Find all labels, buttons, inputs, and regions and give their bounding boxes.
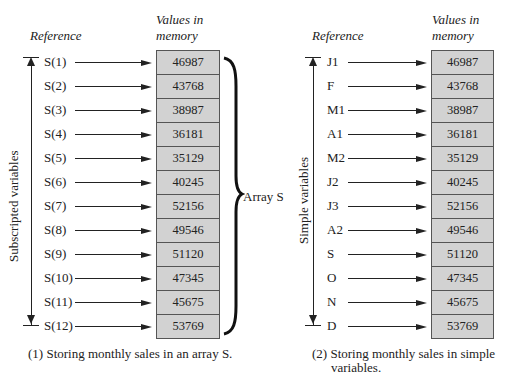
reference-label: A2 [327, 222, 343, 238]
arrow-line [348, 110, 417, 111]
arrow-line [75, 326, 142, 327]
reference-label: S(4) [44, 126, 66, 142]
right-values-header-line2: memory [432, 28, 474, 43]
arrow-line [75, 230, 142, 231]
arrow-right-icon [141, 60, 152, 66]
reference-label: S(8) [44, 222, 66, 238]
arrow-line [75, 182, 142, 183]
arrow-right-icon [416, 108, 427, 114]
arrow-right-icon [141, 84, 152, 90]
arrow-line [348, 230, 417, 231]
right-axis-bottom-bar [305, 325, 321, 326]
arrow-right-icon [141, 204, 152, 210]
memory-cell: 46987 [156, 50, 220, 75]
left-values-header-line1: Values in [156, 12, 203, 27]
reference-label: S(11) [44, 294, 72, 310]
brace-label: Array S [243, 189, 284, 205]
arrow-line [75, 110, 142, 111]
reference-label: S(1) [44, 54, 66, 70]
arrow-right-icon [416, 84, 427, 90]
array-brace-icon [222, 56, 242, 336]
memory-cell: 47345 [431, 266, 494, 291]
memory-cell: 53769 [156, 314, 220, 339]
left-reference-header: Reference [30, 28, 81, 43]
reference-label: S(12) [44, 318, 73, 334]
reference-label: S(3) [44, 102, 66, 118]
arrow-line [75, 86, 142, 87]
reference-label: A1 [327, 126, 343, 142]
memory-cell: 45675 [431, 290, 494, 315]
reference-label: O [327, 270, 336, 286]
arrow-line [75, 278, 142, 279]
memory-cell: 46987 [431, 50, 494, 75]
left-axis-label: Subscripted variables [6, 150, 22, 262]
memory-cell: 36181 [156, 122, 220, 147]
memory-cell: 40245 [156, 170, 220, 195]
arrow-right-icon [416, 180, 427, 186]
memory-cell: 43768 [431, 74, 494, 99]
arrow-right-icon [141, 156, 152, 162]
memory-cell: 52156 [431, 194, 494, 219]
arrow-line [348, 158, 417, 159]
arrow-right-icon [416, 60, 427, 66]
reference-label: S(10) [44, 270, 73, 286]
memory-cell: 51120 [156, 242, 220, 267]
arrow-line [75, 254, 142, 255]
arrow-right-icon [416, 228, 427, 234]
arrow-line [75, 134, 142, 135]
arrow-right-icon [416, 204, 427, 210]
right-axis-label: Simple variables [296, 157, 312, 244]
memory-cell: 47345 [156, 266, 220, 291]
arrow-line [348, 134, 417, 135]
arrow-line [348, 326, 417, 327]
right-values-header-line1: Values in [432, 12, 479, 27]
arrow-right-icon [141, 132, 152, 138]
reference-label: S(9) [44, 246, 66, 262]
arrow-right-icon [416, 276, 427, 282]
arrow-right-icon [416, 132, 427, 138]
arrow-right-icon [141, 228, 152, 234]
memory-cell: 49546 [156, 218, 220, 243]
memory-cell: 45675 [156, 290, 220, 315]
arrow-line [75, 302, 142, 303]
arrow-line [348, 254, 417, 255]
left-values-header-line2: memory [156, 28, 198, 43]
reference-label: S(2) [44, 78, 66, 94]
left-caption: (1) Storing monthly sales in an array S. [28, 346, 232, 361]
memory-cell: 38987 [431, 98, 494, 123]
reference-label: J1 [327, 54, 339, 70]
memory-cell: 43768 [156, 74, 220, 99]
reference-label: D [327, 318, 336, 334]
memory-cell: 40245 [431, 170, 494, 195]
arrow-right-icon [416, 300, 427, 306]
arrow-right-icon [141, 324, 152, 330]
arrow-right-icon [416, 156, 427, 162]
left-axis-down-arrow-icon [27, 315, 35, 325]
reference-label: J3 [327, 198, 339, 214]
memory-cell: 38987 [156, 98, 220, 123]
arrow-right-icon [141, 180, 152, 186]
arrow-line [348, 278, 417, 279]
memory-cell: 49546 [431, 218, 494, 243]
reference-label: S(5) [44, 150, 66, 166]
arrow-line [348, 182, 417, 183]
memory-cell: 52156 [156, 194, 220, 219]
left-axis-bottom-bar [23, 325, 39, 326]
arrow-right-icon [141, 252, 152, 258]
right-caption-line2: variables. [331, 360, 381, 375]
arrow-line [75, 62, 142, 63]
memory-cell: 51120 [431, 242, 494, 267]
reference-label: M2 [327, 150, 345, 166]
reference-label: J2 [327, 174, 339, 190]
memory-cell: 35129 [156, 146, 220, 171]
reference-label: S [327, 246, 334, 262]
arrow-right-icon [141, 300, 152, 306]
reference-label: S(6) [44, 174, 66, 190]
right-axis-line [313, 60, 314, 326]
memory-cell: 53769 [431, 314, 494, 339]
reference-label: M1 [327, 102, 345, 118]
right-axis-down-arrow-icon [309, 315, 317, 325]
arrow-line [348, 302, 417, 303]
right-reference-header: Reference [312, 28, 363, 43]
arrow-line [75, 158, 142, 159]
